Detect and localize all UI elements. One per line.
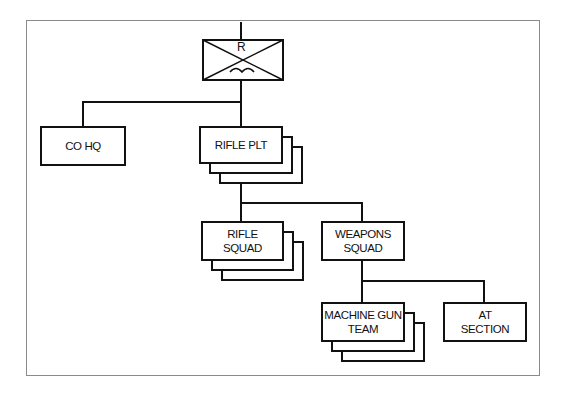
node-label: MACHINE GUN TEAM bbox=[324, 308, 401, 336]
node-rifle-squad: RIFLE SQUAD bbox=[201, 221, 284, 261]
node-rifle-plt: RIFLE PLT bbox=[199, 126, 283, 164]
connector bbox=[82, 101, 84, 126]
connector bbox=[361, 280, 484, 282]
connector bbox=[483, 280, 485, 302]
node-machine-gun-team: MACHINE GUN TEAM bbox=[321, 302, 405, 342]
node-label: CO HQ bbox=[65, 139, 101, 153]
node-at-section: AT SECTION bbox=[443, 302, 527, 342]
connector bbox=[361, 261, 363, 303]
connector bbox=[361, 202, 363, 221]
connector bbox=[240, 80, 242, 126]
node-label: RIFLE PLT bbox=[215, 138, 267, 152]
node-label: WEAPONS SQUAD bbox=[335, 227, 391, 255]
unit-symbol-letter: R bbox=[237, 40, 246, 54]
connector bbox=[82, 101, 242, 103]
node-label: AT SECTION bbox=[461, 308, 509, 336]
node-label: RIFLE SQUAD bbox=[223, 227, 262, 255]
connector bbox=[240, 22, 242, 40]
node-co-hq: CO HQ bbox=[40, 126, 126, 166]
connector bbox=[240, 202, 362, 204]
node-weapons-squad: WEAPONS SQUAD bbox=[321, 221, 405, 261]
